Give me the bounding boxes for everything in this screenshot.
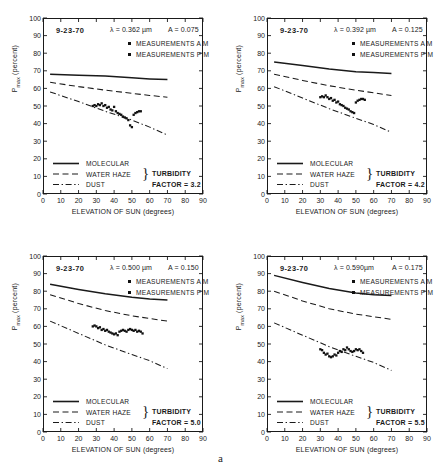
turbidity-title: TURBIDITY: [152, 170, 191, 177]
legend-brace: }: [142, 166, 149, 181]
turbidity-title: TURBIDITY: [376, 408, 415, 415]
turbidity-title: TURBIDITY: [152, 408, 191, 415]
legend-curve-label: WATER HAZE: [310, 171, 355, 178]
legend-line-samples: [0, 0, 224, 238]
legend-curve-label: MOLECULAR: [86, 398, 129, 405]
legend-curve-label: DUST: [86, 181, 105, 188]
legend-line-samples: [0, 238, 224, 476]
chart-panel-bottom-right: 0102030405060708090100010203040506070809…: [224, 238, 448, 476]
legend-curve-label: DUST: [310, 181, 329, 188]
chart-panel-top-right: 0102030405060708090100010203040506070809…: [224, 0, 448, 238]
legend-curve-label: DUST: [86, 419, 105, 426]
legend-line-samples: [224, 238, 448, 476]
legend-brace: }: [142, 404, 149, 419]
legend-brace: }: [366, 166, 373, 181]
turbidity-factor-value: FACTOR = 4.2: [376, 181, 425, 188]
legend-curve-label: MOLECULAR: [86, 160, 129, 167]
figure-panel-grid: 0102030405060708090100010203040506070809…: [0, 0, 448, 476]
turbidity-factor-value: FACTOR = 3.2: [152, 181, 201, 188]
legend-curve-label: MOLECULAR: [310, 160, 353, 167]
turbidity-title: TURBIDITY: [376, 170, 415, 177]
turbidity-factor-value: FACTOR = 5.0: [152, 419, 201, 426]
legend-brace: }: [366, 404, 373, 419]
legend-line-samples: [224, 0, 448, 238]
legend-curve-label: WATER HAZE: [86, 171, 131, 178]
legend-curve-label: WATER HAZE: [310, 409, 355, 416]
turbidity-factor-value: FACTOR = 5.5: [376, 419, 425, 426]
legend-curve-label: MOLECULAR: [310, 398, 353, 405]
figure-label: a: [218, 452, 223, 464]
chart-panel-top-left: 0102030405060708090100010203040506070809…: [0, 0, 224, 238]
legend-curve-label: DUST: [310, 419, 329, 426]
legend-curve-label: WATER HAZE: [86, 409, 131, 416]
chart-panel-bottom-left: 0102030405060708090100010203040506070809…: [0, 238, 224, 476]
